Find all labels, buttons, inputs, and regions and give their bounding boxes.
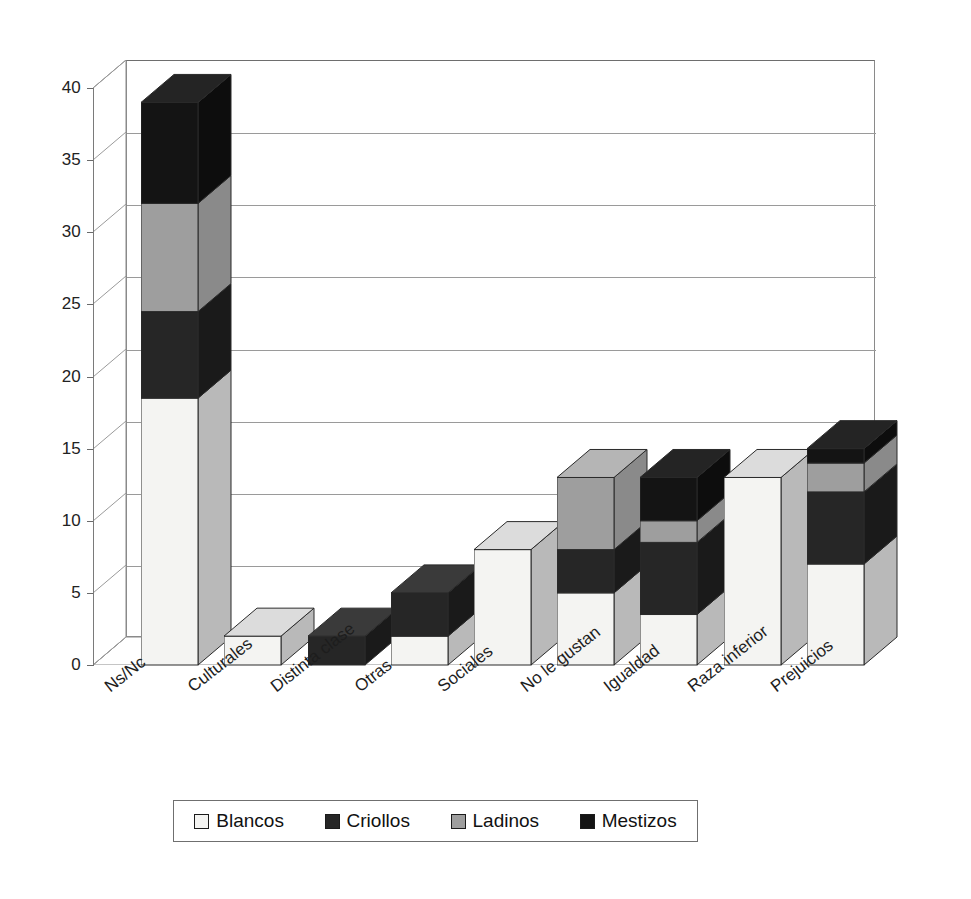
y-axis-line (93, 88, 94, 665)
y-axis-depth-connector (93, 493, 128, 523)
y-axis-depth-connector (93, 132, 128, 162)
y-axis-depth-connector (93, 60, 128, 90)
x-axis-labels: Ns/NcCulturalesDistinta claseOtrasSocial… (93, 663, 971, 803)
legend-item[interactable]: Criollos (325, 810, 410, 832)
y-axis-tick-label: 20 (41, 367, 81, 387)
y-axis-tick-label: 10 (41, 511, 81, 531)
y-axis-depth-connector (93, 204, 128, 234)
legend-item[interactable]: Mestizos (580, 810, 677, 832)
legend-item[interactable]: Ladinos (451, 810, 540, 832)
y-axis-tick-label: 5 (41, 583, 81, 603)
legend-swatch-icon (580, 814, 595, 829)
bars-layer (93, 60, 875, 665)
y-axis-tick-label: 40 (41, 78, 81, 98)
y-axis-tick-label: 30 (41, 222, 81, 242)
bar-column (640, 60, 732, 669)
y-axis-depth-connector (93, 349, 128, 379)
legend-label: Blancos (216, 810, 284, 832)
legend-label: Criollos (347, 810, 410, 832)
y-axis-depth-connector (93, 421, 128, 451)
legend-item[interactable]: Blancos (194, 810, 284, 832)
y-axis-tick-label: 0 (41, 655, 81, 675)
bar-column (224, 60, 316, 669)
legend-swatch-icon (194, 814, 209, 829)
legend-label: Mestizos (602, 810, 677, 832)
bar-column (391, 60, 483, 669)
legend-swatch-icon (325, 814, 340, 829)
y-axis-tick-label: 15 (41, 439, 81, 459)
y-axis-depth-connector (93, 276, 128, 306)
plot-area (93, 60, 875, 665)
bar-column (474, 60, 566, 669)
y-axis-tick-label: 35 (41, 150, 81, 170)
chart-legend: BlancosCriollosLadinosMestizos (173, 800, 698, 842)
bar-column (308, 60, 400, 669)
chart-container: 0510152025303540 Ns/NcCulturalesDistinta… (0, 0, 971, 899)
bar-column (724, 60, 816, 669)
y-axis-depth-connector (93, 565, 128, 595)
bar-column (141, 60, 233, 669)
legend-swatch-icon (451, 814, 466, 829)
bar-column (807, 60, 899, 669)
bar-column (557, 60, 649, 669)
y-axis-tick-label: 25 (41, 294, 81, 314)
legend-label: Ladinos (473, 810, 540, 832)
